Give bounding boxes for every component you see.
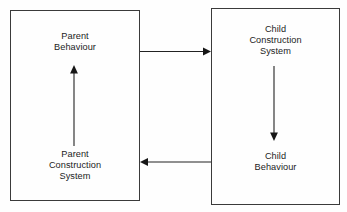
diagram-canvas: Parent Behaviour Parent Construction Sys… — [0, 0, 347, 212]
arrow-child-behaviour-to-parent-construction-icon — [140, 158, 211, 166]
parent-construction-system-label: Parent Construction System — [10, 149, 140, 183]
child-construction-system-label: Child Construction System — [211, 24, 340, 58]
child-behaviour-label: Child Behaviour — [211, 151, 340, 173]
arrow-parent-behaviour-to-child-construction-icon — [140, 48, 211, 56]
parent-behaviour-label: Parent Behaviour — [10, 31, 140, 53]
